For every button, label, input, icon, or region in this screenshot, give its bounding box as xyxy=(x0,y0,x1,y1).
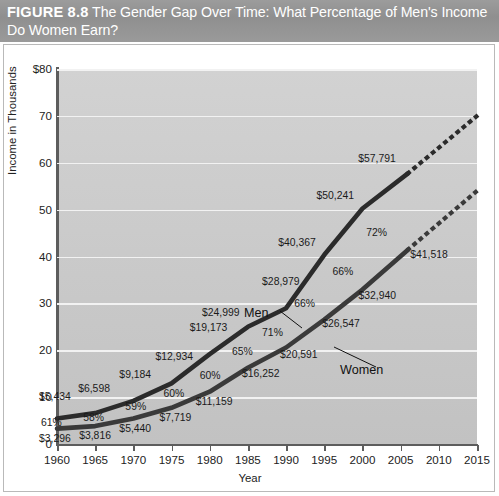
value-label-men: $40,367 xyxy=(278,237,316,248)
ratio-percentage-label: 60% xyxy=(164,388,185,399)
value-label-women: $20,591 xyxy=(280,349,318,360)
ratio-percentage-label: 65% xyxy=(232,346,253,357)
projection-line-men xyxy=(408,116,477,173)
figure-header-banner: FIGURE 8.8 The Gender Gap Over Time: Wha… xyxy=(0,0,499,42)
value-label-women: $11,159 xyxy=(196,396,233,407)
ratio-percentage-label: 61% xyxy=(41,417,62,428)
value-label-women: $3,816 xyxy=(79,430,111,441)
figure-title-line-1: FIGURE 8.8 The Gender Gap Over Time: Wha… xyxy=(7,3,491,21)
value-label-women: $3,296 xyxy=(39,433,71,444)
figure-title-part-2: Do Women Earn? xyxy=(7,22,118,38)
value-label-women: $26,547 xyxy=(322,318,360,329)
series-label-men: Men xyxy=(244,306,269,320)
value-label-men: $28,979 xyxy=(262,276,300,287)
value-label-men: $6,598 xyxy=(78,383,110,394)
value-label-men: $5,434 xyxy=(39,391,71,402)
projection-line-women xyxy=(408,191,477,250)
series-label-women: Women xyxy=(340,363,383,377)
figure-title-line-2: Do Women Earn? xyxy=(7,21,491,39)
value-label-women: $16,252 xyxy=(242,368,280,379)
figure-number: FIGURE 8.8 xyxy=(7,4,88,20)
leader-line xyxy=(280,311,302,328)
value-label-men: $57,791 xyxy=(358,153,396,164)
figure-body: Income in Thousands Year $80706050403020… xyxy=(0,42,499,496)
value-label-men: $50,241 xyxy=(316,190,354,201)
value-label-women: $7,719 xyxy=(160,412,192,423)
ratio-percentage-label: 66% xyxy=(332,266,353,277)
ratio-percentage-label: 58% xyxy=(83,412,104,423)
value-label-men: $9,184 xyxy=(119,369,151,380)
value-label-men: $12,934 xyxy=(156,351,194,362)
value-label-men: $19,173 xyxy=(190,322,228,333)
figure-title-part-1: The Gender Gap Over Time: What Percentag… xyxy=(92,4,487,20)
chart-series-canvas xyxy=(4,45,496,493)
value-label-men: $24,999 xyxy=(202,307,240,318)
series-lines xyxy=(57,116,477,429)
value-label-women: $32,940 xyxy=(358,290,396,301)
value-label-women: $41,518 xyxy=(410,249,448,260)
ratio-percentage-label: 66% xyxy=(294,298,315,309)
ratio-percentage-label: 59% xyxy=(125,401,146,412)
value-label-women: $5,440 xyxy=(119,423,151,434)
chart-frame: Income in Thousands Year $80706050403020… xyxy=(3,44,495,492)
ratio-percentage-label: 60% xyxy=(200,370,221,381)
ratio-percentage-label: 72% xyxy=(366,227,387,238)
ratio-percentage-label: 71% xyxy=(262,327,283,338)
